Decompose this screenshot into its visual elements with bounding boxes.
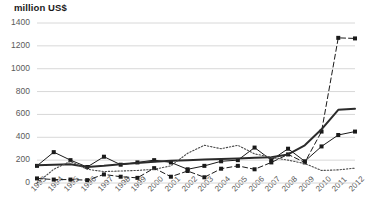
data-point-marker (202, 164, 206, 168)
data-point-marker (320, 144, 324, 148)
data-point-marker (353, 36, 357, 40)
data-series-layer (35, 36, 357, 183)
data-point-marker (186, 169, 190, 173)
data-point-marker (236, 164, 240, 168)
data-point-marker (219, 167, 223, 171)
data-point-marker (336, 36, 340, 40)
data-point-marker (102, 172, 106, 176)
data-point-marker (35, 176, 39, 180)
data-point-marker (52, 150, 56, 154)
data-point-marker (68, 178, 72, 182)
data-point-marker (52, 178, 56, 182)
data-point-marker (353, 130, 357, 134)
data-point-marker (135, 176, 139, 180)
data-point-marker (202, 175, 206, 179)
data-point-marker (102, 155, 106, 159)
data-point-marker (336, 133, 340, 137)
data-point-marker (253, 146, 257, 150)
data-point-marker (85, 178, 89, 182)
data-point-marker (269, 160, 273, 164)
data-point-marker (119, 175, 123, 179)
data-point-marker (169, 175, 173, 179)
series-line (37, 145, 355, 183)
data-point-marker (286, 147, 290, 151)
data-point-marker (253, 167, 257, 171)
series-dotted (37, 145, 355, 183)
